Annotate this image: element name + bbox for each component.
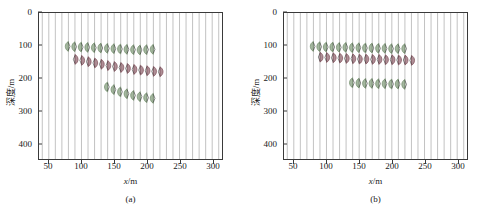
wavelet — [98, 43, 101, 53]
event-event-1-upper-green — [310, 41, 406, 53]
wavelet — [65, 41, 68, 51]
y-tick-label: 400 — [264, 139, 278, 148]
wavelet — [356, 78, 359, 88]
panel-a: 0100200300400 50100150200250300 x/m 深度/m… — [0, 0, 245, 220]
wavelet — [398, 55, 401, 65]
wavelet — [411, 55, 414, 65]
wavelet — [147, 66, 150, 76]
wavelet — [78, 42, 81, 52]
x-axis-unit-b: /m — [373, 176, 383, 186]
wavelet — [340, 53, 343, 63]
x-tick-mark — [293, 160, 294, 164]
wavelet — [336, 42, 339, 52]
wavelet — [317, 42, 320, 52]
x-axis-labels-a: 50100150200250300 — [38, 162, 223, 176]
x-tick-mark — [359, 160, 360, 164]
plot-area-a — [38, 12, 223, 160]
wavelet — [363, 43, 366, 53]
y-tick-mark — [283, 143, 287, 144]
wavelet — [118, 87, 121, 97]
wavelet — [402, 79, 405, 89]
y-tick-label: 200 — [19, 73, 33, 82]
y-tick-label: 300 — [19, 106, 33, 115]
wavelet — [402, 44, 405, 54]
y-tick-mark — [283, 12, 287, 13]
x-axis-title-a: x/m — [38, 176, 223, 186]
wavelet — [389, 79, 392, 89]
x-tick-mark — [458, 160, 459, 164]
y-tick-label: 200 — [264, 73, 278, 82]
wavelet — [153, 66, 156, 76]
y-tick-label: 0 — [28, 8, 33, 17]
x-tick-mark — [114, 160, 115, 164]
x-tick-mark — [213, 160, 214, 164]
y-tick-mark — [38, 110, 42, 111]
wavelet — [385, 55, 388, 65]
x-tick-mark — [425, 160, 426, 164]
wavelet — [101, 59, 104, 69]
wavelet — [343, 42, 346, 52]
wavelet — [85, 42, 88, 52]
y-tick-mark — [38, 77, 42, 78]
wavelet — [81, 55, 84, 65]
wavelet — [144, 93, 147, 103]
wavelet — [323, 42, 326, 52]
y-tick-label: 100 — [264, 40, 278, 49]
wavelet — [91, 43, 94, 53]
wavelet — [379, 54, 382, 64]
wavelet — [330, 42, 333, 52]
wavelet — [382, 79, 385, 89]
wavelet — [118, 44, 121, 54]
y-tick-mark — [283, 110, 287, 111]
wavelet — [160, 67, 163, 77]
wavelet — [310, 41, 313, 51]
wavelet — [320, 52, 323, 62]
wavelet — [395, 79, 398, 89]
wavelet — [111, 44, 114, 54]
panel-caption-b: (b) — [283, 194, 468, 204]
wavelet — [363, 78, 366, 88]
wavelet — [124, 44, 127, 54]
wavelet — [333, 53, 336, 63]
wavelet — [114, 62, 117, 72]
wavelet — [369, 78, 372, 88]
x-tick-mark — [326, 160, 327, 164]
wavelet — [389, 44, 392, 54]
wavelet — [121, 63, 124, 73]
wavelet — [405, 55, 408, 65]
wavelet — [105, 82, 108, 92]
panel-b: 0100200300400 50100150200250300 x/m 深度/m… — [245, 0, 490, 220]
wavelet — [350, 78, 353, 88]
x-axis-labels-b: 50100150200250300 — [283, 162, 468, 176]
x-tick-mark — [392, 160, 393, 164]
wavelet — [111, 85, 114, 95]
wavelet — [372, 54, 375, 64]
wavelet — [108, 61, 111, 71]
wavelet — [150, 93, 153, 103]
y-tick-label: 0 — [273, 8, 278, 17]
y-tick-mark — [38, 143, 42, 144]
y-tick-mark — [38, 12, 42, 13]
wavelet — [366, 54, 369, 64]
y-tick-mark — [38, 44, 42, 45]
x-tick-mark — [48, 160, 49, 164]
wavelet — [376, 43, 379, 53]
wavelet — [88, 57, 91, 67]
wavelet — [144, 45, 147, 55]
wavelet — [127, 64, 130, 74]
plot-area-b — [283, 12, 468, 160]
wavelet — [356, 43, 359, 53]
wavelet — [326, 53, 329, 63]
y-axis-title-a: 深度/m — [4, 61, 17, 125]
wavelet — [105, 43, 108, 53]
wavelet — [95, 58, 98, 68]
x-tick-mark — [81, 160, 82, 164]
seismic-wiggle-figure: 0100200300400 50100150200250300 x/m 深度/m… — [0, 0, 490, 220]
wavelet — [369, 43, 372, 53]
y-axis-title-b: 深度/m — [249, 61, 262, 125]
wavelet — [376, 79, 379, 89]
wavelet — [75, 54, 78, 64]
wavelet — [137, 92, 140, 102]
x-tick-mark — [180, 160, 181, 164]
x-tick-mark — [147, 160, 148, 164]
